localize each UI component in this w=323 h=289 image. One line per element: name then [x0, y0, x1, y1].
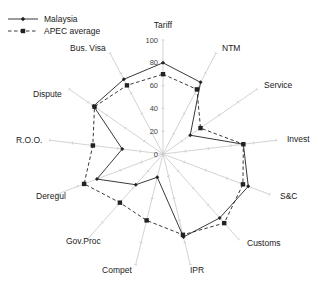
axis-label: IPR [190, 265, 204, 275]
axis-label: Invest [287, 134, 310, 144]
tick-mark [172, 198, 175, 199]
axis-label: NTM [222, 43, 240, 53]
tick-mark [205, 169, 206, 172]
radial-tick-label: 80 [150, 58, 158, 67]
legend-label-malaysia: Malaysia [44, 14, 78, 24]
square-marker-icon [91, 143, 95, 147]
tick-mark [167, 176, 170, 177]
tick-mark [151, 198, 154, 199]
axis-line-gov-proc [87, 154, 163, 239]
axis-label: Service [264, 80, 293, 90]
axis-label: S&C [280, 191, 297, 201]
axis-line-compet [136, 154, 163, 265]
tick-mark [183, 242, 186, 243]
axis-label: Dispute [33, 89, 62, 99]
axis-line-customs [163, 154, 239, 239]
tick-mark [120, 169, 121, 172]
axis-label: Deregul [36, 191, 66, 201]
axis-label: Bus. Visa [70, 43, 106, 53]
radial-tick-label: 20 [150, 127, 158, 136]
data-series [82, 61, 250, 239]
tick-mark [269, 193, 270, 196]
tick-mark [77, 185, 78, 188]
square-marker-icon [195, 87, 199, 91]
axis-line-s-c [163, 154, 270, 194]
axis-line-ipr [163, 154, 190, 265]
axis-line-ntm [163, 53, 216, 154]
axis-label: Tariff [154, 20, 173, 30]
diamond-marker-icon [199, 80, 203, 84]
square-marker-icon [82, 182, 86, 186]
square-marker-icon [161, 72, 165, 76]
radial-tick-label: 100 [145, 36, 158, 45]
legend: Malaysia APEC average [8, 14, 100, 36]
radial-tick-label: 0 [154, 150, 158, 159]
series-polygon [94, 63, 249, 237]
square-marker-icon [181, 233, 185, 237]
tick-mark [141, 161, 142, 164]
tick-mark [134, 264, 137, 265]
legend-label-apec-average: APEC average [44, 26, 100, 36]
square-marker-icon [92, 105, 96, 109]
tick-mark [178, 220, 181, 221]
axis-label: R.O.O. [16, 135, 42, 145]
diamond-marker-icon [21, 17, 25, 21]
tick-mark [184, 161, 185, 164]
square-marker-icon [198, 126, 202, 130]
axis-label: Compet [102, 265, 132, 275]
radar-chart: 020406080100 TariffNTMServiceInvestS&CCu… [0, 0, 323, 289]
tick-mark [226, 177, 227, 180]
axis-line-deregul [56, 154, 163, 194]
series-malaysia [92, 61, 251, 239]
square-marker-icon [21, 29, 25, 33]
square-marker-icon [222, 221, 226, 225]
diamond-marker-icon [155, 175, 159, 179]
square-marker-icon [144, 218, 148, 222]
square-marker-icon [118, 200, 122, 204]
axis-label: Customs [247, 238, 281, 248]
radial-tick-label: 40 [150, 104, 158, 113]
legend-item-malaysia: Malaysia [8, 14, 78, 24]
square-marker-icon [241, 142, 245, 146]
square-marker-icon [241, 182, 245, 186]
radial-tick-label: 60 [150, 81, 158, 90]
tick-mark [140, 242, 143, 243]
axis-label: Gov.Proc [66, 236, 102, 246]
diamond-marker-icon [161, 61, 165, 65]
square-marker-icon [125, 83, 129, 87]
legend-item-apec-average: APEC average [8, 26, 100, 36]
